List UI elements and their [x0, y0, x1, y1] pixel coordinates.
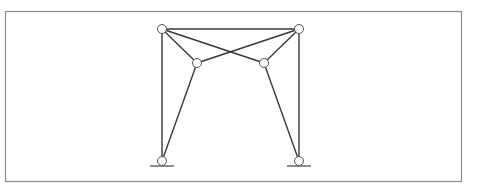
- joint-inner-right-joint: [260, 59, 269, 68]
- joint-right-support: [295, 157, 304, 166]
- joint-top-left-joint: [158, 25, 167, 34]
- joint-top-right-joint: [295, 25, 304, 34]
- member-D-F: [264, 63, 299, 161]
- members-group: [162, 29, 299, 161]
- joint-inner-left-joint: [193, 59, 202, 68]
- truss-diagram: [0, 0, 481, 188]
- member-C-E: [162, 63, 197, 161]
- joint-left-support: [158, 157, 167, 166]
- diagram-frame: [6, 12, 462, 182]
